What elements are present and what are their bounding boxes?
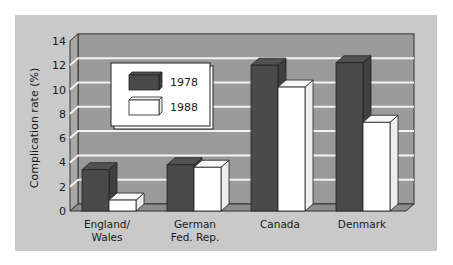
y-tick-label: 6: [59, 132, 66, 145]
legend-label: 1988: [170, 101, 198, 114]
legend-swatch-1988: [129, 97, 162, 115]
bar-1988: [109, 193, 144, 211]
y-tick-label: 14: [52, 35, 66, 48]
x-tick-label: England/: [84, 218, 131, 230]
y-tick-label: 4: [59, 156, 66, 169]
bar-1988: [278, 80, 313, 211]
y-tick-label: 2: [59, 181, 66, 194]
chart: 02468101214 Complication rate (%) 197819…: [0, 0, 453, 265]
x-tick-label: German: [174, 218, 216, 230]
bar-1988: [194, 160, 229, 211]
bar-1988: [363, 115, 398, 211]
y-tick-label: 10: [52, 84, 66, 97]
y-tick-label: 12: [52, 59, 66, 72]
x-tick-label: Fed. Rep.: [171, 231, 220, 243]
x-tick-label: Canada: [260, 218, 300, 230]
legend-label: 1978: [170, 76, 198, 89]
x-tick-label: Wales: [92, 231, 123, 243]
legend: 19781988: [111, 63, 213, 129]
y-tick-label: 8: [59, 108, 66, 121]
legend-swatch-1978: [129, 72, 162, 90]
y-tick-label: 0: [59, 205, 66, 218]
y-axis-label: Complication rate (%): [28, 68, 41, 188]
x-tick-label: Denmark: [338, 218, 387, 230]
